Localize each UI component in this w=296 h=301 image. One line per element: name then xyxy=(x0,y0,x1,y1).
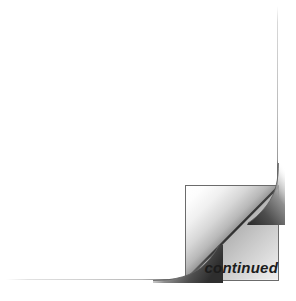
page-curl-illustration: continued xyxy=(0,0,296,301)
curl-tail-right xyxy=(247,163,285,225)
continued-label: continued xyxy=(202,259,278,277)
